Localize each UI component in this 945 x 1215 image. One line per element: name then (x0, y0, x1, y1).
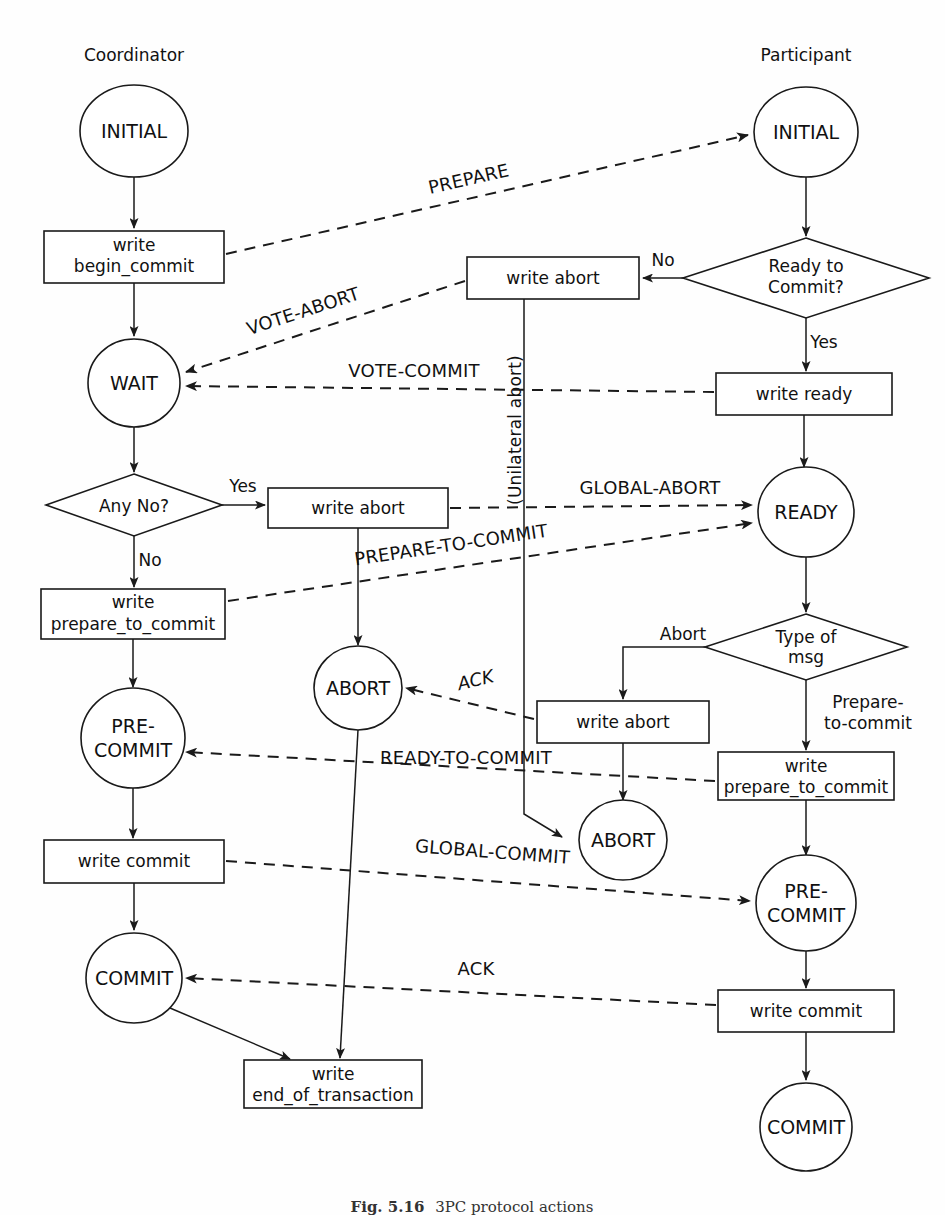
coord-action-eot-line1: write (312, 1064, 355, 1084)
part-action-write-commit-label: write commit (750, 1001, 863, 1021)
coord-state-abort-label: ABORT (326, 677, 390, 699)
part-state-commit-label: COMMIT (767, 1116, 846, 1138)
part-state-initial-label: INITIAL (773, 121, 840, 143)
part-branch-label-yes: Yes (809, 332, 838, 352)
coord-state-pre-commit-line2: COMMIT (94, 739, 173, 761)
edge-msg-global-abort (450, 505, 752, 508)
part-state-abort-label: ABORT (591, 829, 655, 851)
coord-action-prepare-to-commit-line2: prepare_to_commit (51, 614, 216, 635)
msg-label-vote-abort: VOTE-ABORT (244, 282, 363, 338)
coord-action-prepare-to-commit-line1: write (112, 592, 155, 612)
coord-action-eot-line2: end_of_transaction (252, 1085, 413, 1106)
part-decision-type-line1: Type of (775, 627, 838, 647)
edge-msg-prepare (226, 135, 748, 254)
protocol-state-diagram: INITIAL write begin_commit WAIT Any No? … (0, 0, 945, 1215)
edge-msg-ack-abort (406, 688, 534, 719)
part-branch-label-prepare-line2: to-commit (824, 713, 912, 733)
part-action-ptc-line2: prepare_to_commit (724, 777, 889, 798)
coord-action-write-abort-label: write abort (311, 498, 405, 518)
coord-state-pre-commit (81, 688, 185, 788)
coord-decision-any-no-label: Any No? (99, 496, 169, 516)
msg-label-ack-abort: ACK (454, 665, 497, 694)
part-decision-ready-line1: Ready to (768, 256, 843, 276)
coord-state-wait-label: WAIT (110, 372, 158, 394)
part-action-ptc-line1: write (785, 756, 828, 776)
msg-label-ack-commit: ACK (458, 958, 496, 979)
coord-state-initial-label: INITIAL (101, 120, 168, 142)
edge-part-typeofmsg-abort (623, 647, 705, 699)
lane-title-coordinator: Coordinator (84, 45, 184, 65)
msg-label-global-commit: GLOBAL-COMMIT (414, 835, 571, 868)
msg-label-global-abort: GLOBAL-ABORT (579, 477, 721, 498)
part-action-write-abort-top-label: write abort (506, 268, 600, 288)
edge-coord-commit-to-eot (170, 1008, 290, 1059)
part-branch-label-no: No (651, 250, 674, 270)
msg-label-vote-commit: VOTE-COMMIT (348, 360, 480, 381)
coord-branch-label-yes: Yes (228, 476, 257, 496)
figure-caption-text: 3PC protocol actions (435, 1198, 593, 1215)
lane-title-participant: Participant (760, 45, 851, 65)
part-branch-label-prepare-line1: Prepare- (832, 692, 903, 712)
edge-coord-abort-to-eot (340, 730, 358, 1058)
part-action-write-abort-mid-label: write abort (576, 712, 670, 732)
part-annotation-unilateral-abort: (Unilateral abort) (505, 355, 525, 505)
coord-branch-label-no: No (138, 550, 161, 570)
part-state-pre-commit-line2: COMMIT (767, 904, 846, 926)
part-branch-label-abort: Abort (660, 624, 707, 644)
msg-label-ready-to-commit: READY-TO-COMMIT (380, 747, 553, 768)
coord-state-pre-commit-line1: PRE- (111, 715, 155, 737)
coord-action-begin-commit-line2: begin_commit (74, 256, 195, 277)
msg-label-prepare: PREPARE (426, 159, 511, 198)
part-decision-type-line2: msg (788, 647, 824, 667)
coord-action-begin-commit-line1: write (113, 235, 156, 255)
part-state-pre-commit (756, 855, 856, 951)
figure-caption-label: Fig. 5.16 (351, 1198, 425, 1215)
edge-msg-ack-commit (186, 978, 716, 1005)
part-action-write-ready-label: write ready (756, 384, 853, 404)
figure-3pc-protocol-actions: INITIAL write begin_commit WAIT Any No? … (0, 0, 945, 1215)
part-decision-ready-line2: Commit? (768, 277, 844, 297)
part-state-ready-label: READY (774, 501, 838, 523)
edge-msg-global-commit (226, 861, 750, 901)
coord-action-write-commit-label: write commit (78, 851, 191, 871)
coord-state-commit-label: COMMIT (95, 967, 174, 989)
figure-caption: Fig. 5.16 3PC protocol actions (351, 1198, 594, 1215)
edge-msg-vote-commit (186, 386, 714, 392)
part-state-pre-commit-line1: PRE- (784, 880, 828, 902)
